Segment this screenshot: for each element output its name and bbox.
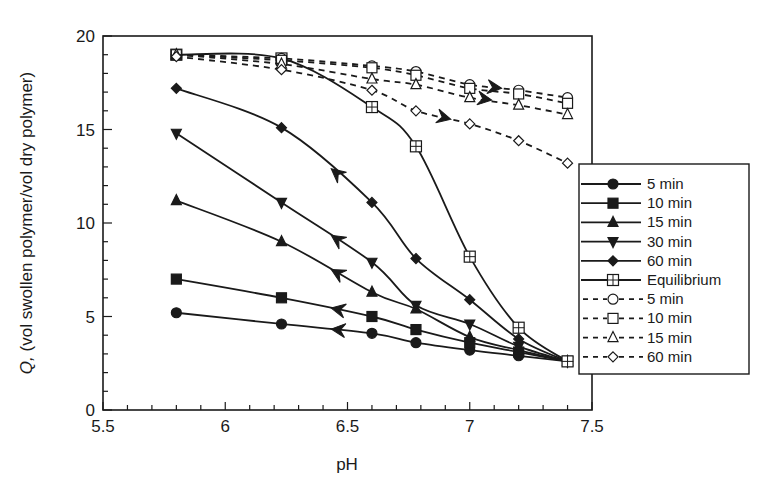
x-tick-label: 6 xyxy=(221,417,230,436)
marker-diamond xyxy=(514,136,524,146)
direction-arrow-icon xyxy=(477,91,493,107)
marker-diamond xyxy=(171,83,181,93)
direction-arrow-icon xyxy=(436,109,453,126)
legend-label: 60 min xyxy=(647,252,692,269)
legend-label: 15 min xyxy=(647,213,692,230)
legend-label: 30 min xyxy=(647,233,692,250)
series-solid-60-min xyxy=(171,83,572,366)
marker-circle xyxy=(608,179,618,189)
y-tick-label: 5 xyxy=(86,308,95,327)
series-solid-15-min xyxy=(171,195,572,366)
marker-square xyxy=(367,63,377,73)
marker-square xyxy=(276,293,286,303)
legend-label: 10 min xyxy=(647,194,692,211)
series-line xyxy=(176,133,567,361)
y-axis: 05101520 xyxy=(76,27,112,420)
direction-arrow-icon xyxy=(327,163,347,183)
x-tick-label: 7.5 xyxy=(580,417,604,436)
y-axis-title-text: (vol swollen polymer/vol dry polymer) xyxy=(17,72,36,356)
y-axis-title: Q, (vol swollen polymer/vol dry polymer) xyxy=(17,72,36,374)
marker-square xyxy=(411,325,421,335)
y-tick-label: 20 xyxy=(76,27,95,46)
marker-circle xyxy=(367,328,377,338)
marker-diamond xyxy=(367,85,377,95)
x-tick-label: 6.5 xyxy=(336,417,360,436)
marker-square xyxy=(367,312,377,322)
marker-triangle-up xyxy=(563,109,573,119)
legend-label: 15 min xyxy=(647,329,692,346)
marker-circle xyxy=(171,308,181,318)
direction-arrow-icon xyxy=(327,230,346,249)
legend-label: Equilibrium xyxy=(647,271,721,288)
marker-circle xyxy=(411,338,421,348)
y-axis-title-symbol: Q, xyxy=(17,356,36,374)
marker-diamond xyxy=(563,158,573,168)
marker-square xyxy=(514,89,524,99)
marker-square xyxy=(608,198,618,208)
marker-triangle-down xyxy=(367,258,377,268)
marker-triangle-down xyxy=(276,198,286,208)
marker-circle xyxy=(608,294,618,304)
direction-arrow-icon xyxy=(487,80,503,96)
legend: 5 min10 min15 min30 min60 minEquilibrium… xyxy=(579,164,749,374)
marker-square xyxy=(608,313,618,323)
y-tick-label: 10 xyxy=(76,214,95,233)
legend-label: 5 min xyxy=(647,290,684,307)
marker-circle xyxy=(276,319,286,329)
marker-square xyxy=(563,98,573,108)
x-axis-title: pH xyxy=(336,455,358,474)
y-tick-label: 15 xyxy=(76,121,95,140)
marker-diamond xyxy=(411,106,421,116)
x-tick-label: 7 xyxy=(465,417,474,436)
direction-arrow-icon xyxy=(328,263,347,282)
legend-label: 5 min xyxy=(647,175,684,192)
marker-triangle-up xyxy=(367,73,377,83)
chart-figure: 05101520 5.566.577.5 pH Q, (vol swollen … xyxy=(0,0,779,489)
legend-label: 60 min xyxy=(647,348,692,365)
marker-triangle-up xyxy=(171,195,181,205)
marker-diamond xyxy=(465,119,475,129)
marker-diamond xyxy=(276,123,286,133)
marker-triangle-down xyxy=(171,129,181,139)
marker-square xyxy=(171,274,181,284)
x-axis: 5.566.577.5 xyxy=(91,402,604,436)
legend-label: 10 min xyxy=(647,309,692,326)
plot-area xyxy=(103,36,592,410)
x-tick-label: 5.5 xyxy=(91,417,115,436)
